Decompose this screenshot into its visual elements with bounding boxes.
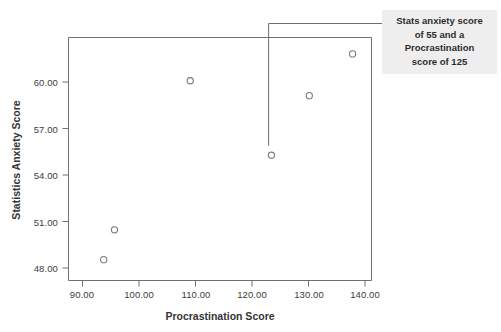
- annotation-line-2: of 55 and a: [386, 28, 493, 42]
- annotation-callout: Stats anxiety score of 55 and a Procrast…: [382, 10, 497, 74]
- x-tick-label: 130.00: [294, 289, 324, 300]
- y-tick-label: 57.00: [22, 124, 58, 135]
- data-point: [349, 51, 355, 57]
- data-point: [101, 257, 107, 263]
- annotation-line-1: Stats anxiety score: [386, 14, 493, 28]
- y-axis-ticks: [63, 82, 69, 268]
- x-axis-title: Procrastination Score: [165, 310, 274, 322]
- y-tick-label: 48.00: [22, 263, 58, 274]
- x-tick-label: 120.00: [237, 289, 267, 300]
- y-tick-label: 60.00: [22, 77, 58, 88]
- annotation-leader-line: [269, 24, 382, 146]
- y-tick-label: 51.00: [22, 217, 58, 228]
- x-tick-label: 90.00: [70, 289, 94, 300]
- x-tick-label: 140.00: [350, 289, 380, 300]
- y-tick-label: 54.00: [22, 170, 58, 181]
- x-tick-label: 100.00: [124, 289, 154, 300]
- scatter-plot-figure: 90.00 100.00 110.00 120.00 130.00 140.00…: [0, 0, 501, 332]
- annotation-line-3: Procrastination: [386, 41, 493, 55]
- x-axis-ticks: [83, 281, 366, 287]
- data-point: [187, 78, 193, 84]
- x-tick-label: 110.00: [182, 289, 211, 300]
- data-point-group: [101, 51, 356, 263]
- y-axis-title: Statistics Anxiety Score: [10, 100, 22, 219]
- annotation-line-4: score of 125: [386, 55, 493, 69]
- data-point: [111, 227, 117, 233]
- data-point: [268, 152, 274, 158]
- plot-frame: [69, 38, 372, 281]
- data-point: [306, 93, 312, 99]
